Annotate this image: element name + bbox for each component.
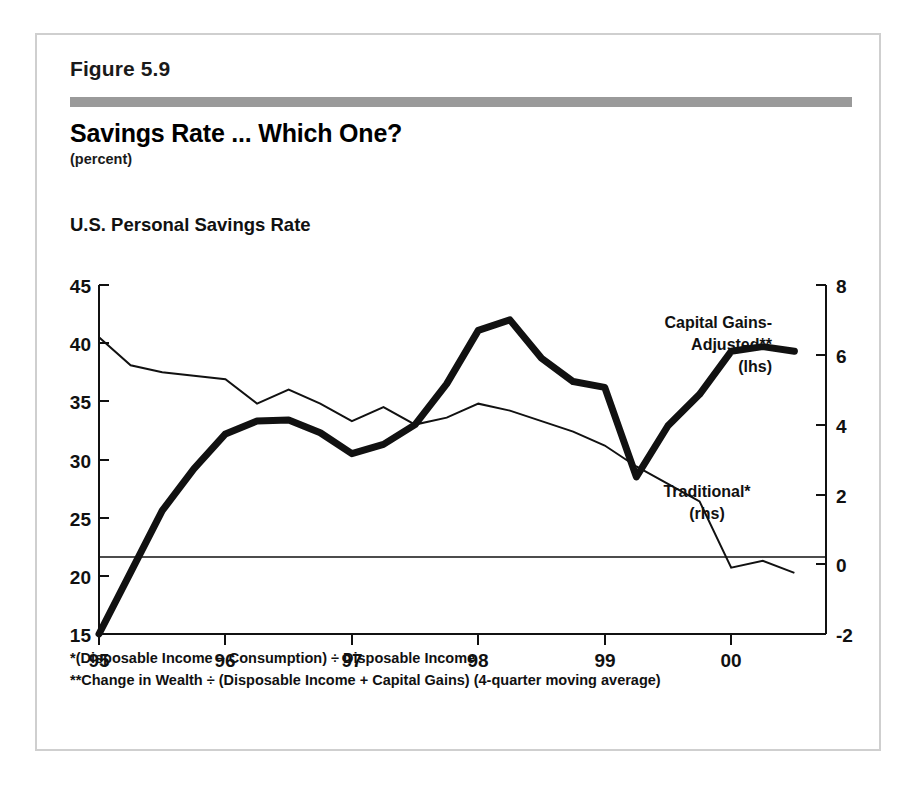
footnote-1: *(Disposable Income – Consumption) ÷ Dis… — [70, 647, 860, 669]
annotation-traditional-line1: Traditional* — [663, 483, 751, 500]
left-axis-label-20: 20 — [70, 567, 91, 588]
right-axis-label-neg2: -2 — [836, 625, 853, 646]
series-line-capital-gains-adjusted — [99, 320, 794, 634]
left-axis-label-25: 25 — [70, 509, 92, 530]
annotation-traditional: Traditional* (rhs) — [663, 483, 751, 522]
left-axis-label-35: 35 — [70, 392, 92, 413]
right-axis-label-2: 2 — [836, 486, 847, 507]
annotation-capital-gains-line2: Adjusted** — [691, 336, 773, 353]
annotation-capital-gains-line1: Capital Gains- — [664, 314, 772, 331]
right-axis-ticks — [816, 285, 826, 634]
annotation-traditional-line2: (rhs) — [689, 505, 725, 522]
bottom-axis-ticks — [99, 634, 731, 645]
right-axis-label-8: 8 — [836, 276, 847, 297]
left-axis-label-30: 30 — [70, 451, 91, 472]
left-axis-labels: 45 40 35 30 25 20 15 — [70, 276, 92, 646]
savings-rate-line-chart: 45 40 35 30 25 20 15 8 6 4 2 0 -2 95 96 — [37, 35, 883, 753]
annotation-capital-gains-line3: (lhs) — [738, 358, 772, 375]
chart-plot-area: 45 40 35 30 25 20 15 8 6 4 2 0 -2 95 96 — [37, 35, 883, 753]
right-axis-label-6: 6 — [836, 346, 847, 367]
right-axis-label-0: 0 — [836, 555, 847, 576]
footnotes: *(Disposable Income – Consumption) ÷ Dis… — [70, 647, 860, 692]
left-axis-label-45: 45 — [70, 276, 92, 297]
left-axis-label-40: 40 — [70, 334, 91, 355]
figure-card: Figure 5.9 Savings Rate ... Which One? (… — [35, 33, 881, 751]
right-axis-labels: 8 6 4 2 0 -2 — [836, 276, 853, 646]
left-axis-label-15: 15 — [70, 625, 92, 646]
right-axis-label-4: 4 — [836, 416, 847, 437]
footnote-2: **Change in Wealth ÷ (Disposable Income … — [70, 669, 860, 691]
